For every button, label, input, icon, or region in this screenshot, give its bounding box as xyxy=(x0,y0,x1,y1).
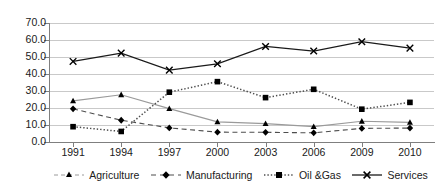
data-point xyxy=(118,129,124,135)
data-point xyxy=(310,129,316,136)
data-point xyxy=(214,129,220,136)
data-point xyxy=(118,92,124,98)
legend-item-oil-and-gas[interactable]: Oil &Gas xyxy=(263,169,343,181)
legend-label: Services xyxy=(387,169,429,181)
data-point xyxy=(166,124,172,131)
legend-label: Manufacturing xyxy=(186,169,255,181)
data-point xyxy=(311,87,317,93)
data-point xyxy=(359,106,365,112)
legend-item-manufacturing[interactable]: Manufacturing xyxy=(150,169,255,181)
legend-item-agriculture[interactable]: Agriculture xyxy=(53,169,141,181)
series-layer xyxy=(0,0,439,187)
data-point xyxy=(167,89,173,95)
cross-marker-icon xyxy=(351,169,383,181)
data-point xyxy=(70,124,76,130)
diamond-marker-icon xyxy=(150,169,182,181)
data-point xyxy=(262,129,268,136)
square-marker-icon xyxy=(263,169,295,181)
data-point xyxy=(263,95,269,101)
line-chart: 0.010.020.030.040.050.060.070.0 19911994… xyxy=(0,0,439,187)
data-point xyxy=(118,117,124,124)
series-services xyxy=(70,38,413,73)
data-point xyxy=(407,100,413,106)
data-point xyxy=(70,105,76,112)
data-point xyxy=(407,125,413,132)
legend-label: Oil &Gas xyxy=(299,169,343,181)
data-point xyxy=(215,79,221,85)
legend-item-services[interactable]: Services xyxy=(351,169,429,181)
triangle-marker-icon xyxy=(53,169,85,181)
chart-legend: Agriculture Manufacturing Oil &Gas xyxy=(49,166,434,184)
legend-label: Agriculture xyxy=(89,169,141,181)
data-point xyxy=(359,125,365,132)
